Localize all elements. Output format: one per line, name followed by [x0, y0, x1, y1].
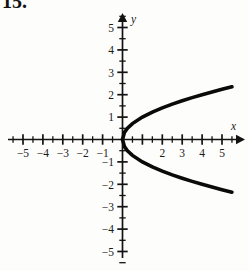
- y-axis-label-3: 3: [108, 67, 114, 79]
- x-axis-label--2: −2: [77, 147, 89, 159]
- y-axis-label-1: 1: [108, 111, 114, 123]
- x-axis-label--4: −4: [37, 147, 49, 159]
- y-axis-label--4: −4: [102, 223, 114, 235]
- y-axis-label--5: −5: [102, 246, 114, 258]
- x-axis-label-3: 3: [179, 147, 185, 159]
- y-axis-name-label: y: [130, 13, 137, 26]
- x-axis-arrowhead: [236, 135, 245, 144]
- y-axis-label-5: 5: [108, 22, 114, 34]
- y-axis-label-2: 2: [108, 89, 114, 101]
- x-axis-name-label: x: [230, 120, 237, 132]
- x-axis-label-2: 2: [159, 147, 165, 159]
- y-axis-label--3: −3: [102, 201, 114, 213]
- x-axis-label-4: 4: [199, 147, 205, 159]
- y-axis-label-4: 4: [108, 44, 114, 56]
- x-axis-label--5: −5: [17, 147, 29, 159]
- figure-container: 15. −5−4−3−2−12345 −5−4−3−2−112345 x y: [0, 0, 249, 271]
- x-axis-tick-labels: −5−4−3−2−12345: [17, 147, 225, 159]
- y-axis-label--2: −2: [102, 179, 114, 191]
- x-axis-label--3: −3: [57, 147, 69, 159]
- coordinate-plane-graph: −5−4−3−2−12345 −5−4−3−2−112345 x y: [0, 0, 249, 271]
- y-axis-arrowhead: [118, 13, 127, 22]
- y-axis-label--1: −1: [102, 156, 114, 168]
- x-axis-label-5: 5: [219, 147, 225, 159]
- parabola-lower-branch: [123, 140, 232, 193]
- parabola-upper-branch: [123, 87, 232, 140]
